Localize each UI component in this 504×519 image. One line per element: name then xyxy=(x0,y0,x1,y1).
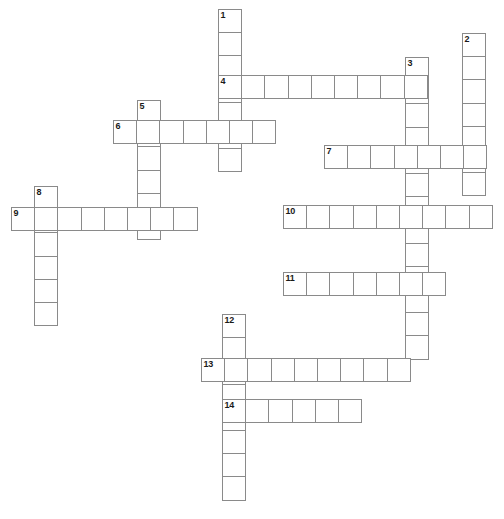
crossword-cell[interactable] xyxy=(469,205,493,229)
crossword-cell[interactable] xyxy=(150,207,174,231)
crossword-cell[interactable] xyxy=(222,430,246,454)
crossword-cell[interactable] xyxy=(399,205,423,229)
crossword-cell[interactable] xyxy=(34,302,58,326)
crossword-cell[interactable] xyxy=(218,32,242,56)
crossword-cell[interactable] xyxy=(245,399,269,423)
crossword-cell[interactable] xyxy=(353,205,377,229)
crossword-cell[interactable] xyxy=(292,399,316,423)
crossword-cell[interactable] xyxy=(311,75,335,99)
crossword-cell[interactable] xyxy=(294,358,318,382)
crossword-cell[interactable] xyxy=(376,205,400,229)
cell-number-7: 7 xyxy=(327,146,332,157)
crossword-cell[interactable] xyxy=(241,75,265,99)
crossword-cell[interactable] xyxy=(357,75,381,99)
cell-number-2: 2 xyxy=(465,34,470,45)
crossword-cell[interactable] xyxy=(218,148,242,172)
crossword-cell[interactable] xyxy=(376,272,400,296)
crossword-cell[interactable]: 10 xyxy=(283,205,307,229)
crossword-cell[interactable] xyxy=(329,272,353,296)
crossword-cell[interactable] xyxy=(462,79,486,103)
crossword-cell[interactable] xyxy=(264,75,288,99)
crossword-cell[interactable] xyxy=(137,170,161,194)
crossword-cell[interactable] xyxy=(462,172,486,196)
crossword-cell[interactable] xyxy=(81,207,105,231)
cell-number-12: 12 xyxy=(225,315,235,326)
cell-number-14: 14 xyxy=(225,400,235,411)
crossword-cell[interactable] xyxy=(462,56,486,80)
crossword-cell[interactable]: 1 xyxy=(218,9,242,33)
crossword-cell[interactable] xyxy=(315,399,339,423)
crossword-cell[interactable] xyxy=(34,232,58,256)
cell-number-3: 3 xyxy=(408,58,413,69)
crossword-cell[interactable] xyxy=(399,272,423,296)
crossword-cell[interactable] xyxy=(206,120,230,144)
cell-number-13: 13 xyxy=(204,359,214,370)
crossword-cell[interactable] xyxy=(404,75,428,99)
crossword-cell[interactable] xyxy=(34,279,58,303)
crossword-cell[interactable] xyxy=(405,173,429,197)
crossword-cell[interactable] xyxy=(137,146,161,170)
cell-number-6: 6 xyxy=(116,121,121,132)
crossword-cell[interactable] xyxy=(173,207,197,231)
crossword-cell[interactable] xyxy=(288,75,312,99)
crossword-cell[interactable] xyxy=(268,399,292,423)
crossword-cell[interactable] xyxy=(417,145,441,169)
crossword-cell[interactable] xyxy=(462,103,486,127)
crossword-cell[interactable] xyxy=(229,120,253,144)
crossword-cell[interactable]: 11 xyxy=(283,272,307,296)
cell-number-11: 11 xyxy=(286,273,295,284)
crossword-cell[interactable] xyxy=(271,358,295,382)
crossword-cell[interactable] xyxy=(370,145,394,169)
crossword-cell[interactable] xyxy=(136,120,160,144)
crossword-cell[interactable] xyxy=(222,476,246,500)
crossword-cell[interactable] xyxy=(380,75,404,99)
crossword-cell[interactable] xyxy=(445,205,469,229)
cell-number-9: 9 xyxy=(14,208,19,219)
cell-number-8: 8 xyxy=(37,187,42,198)
crossword-cell[interactable] xyxy=(57,207,81,231)
crossword-cell[interactable] xyxy=(127,207,151,231)
crossword-cell[interactable]: 4 xyxy=(218,75,242,99)
crossword-cell[interactable] xyxy=(387,358,411,382)
crossword-cell[interactable] xyxy=(405,243,429,267)
crossword-cell[interactable] xyxy=(306,272,330,296)
crossword-cell[interactable] xyxy=(405,312,429,336)
cell-number-5: 5 xyxy=(140,101,145,112)
crossword-cell[interactable] xyxy=(363,358,387,382)
crossword-cell[interactable] xyxy=(422,205,446,229)
crossword-cell[interactable] xyxy=(405,335,429,359)
cell-number-1: 1 xyxy=(221,10,226,21)
crossword-cell[interactable] xyxy=(306,205,330,229)
crossword-cell[interactable] xyxy=(104,207,128,231)
crossword-cell[interactable] xyxy=(34,256,58,280)
crossword-cell[interactable] xyxy=(222,453,246,477)
crossword-cell[interactable] xyxy=(347,145,371,169)
crossword-cell[interactable]: 12 xyxy=(222,314,246,338)
crossword-cell[interactable] xyxy=(159,120,183,144)
crossword-cell[interactable] xyxy=(247,358,271,382)
crossword-cell[interactable]: 9 xyxy=(11,207,35,231)
crossword-cell[interactable] xyxy=(340,358,364,382)
crossword-cell[interactable] xyxy=(317,358,341,382)
crossword-cell[interactable]: 13 xyxy=(201,358,225,382)
crossword-cell[interactable] xyxy=(394,145,418,169)
cell-number-10: 10 xyxy=(286,206,296,217)
crossword-cell[interactable] xyxy=(224,358,248,382)
crossword-cell[interactable] xyxy=(338,399,362,423)
crossword-cell[interactable]: 2 xyxy=(462,33,486,57)
crossword-cell[interactable] xyxy=(252,120,276,144)
crossword-cell[interactable]: 6 xyxy=(113,120,137,144)
crossword-cell[interactable] xyxy=(405,103,429,127)
crossword-cell[interactable]: 7 xyxy=(324,145,348,169)
crossword-grid[interactable]: 1234567891011121314 xyxy=(0,0,504,519)
crossword-cell[interactable]: 14 xyxy=(222,399,246,423)
crossword-cell[interactable] xyxy=(422,272,446,296)
crossword-cell[interactable] xyxy=(440,145,464,169)
crossword-cell[interactable] xyxy=(334,75,358,99)
crossword-cell[interactable] xyxy=(329,205,353,229)
crossword-cell[interactable] xyxy=(34,207,58,231)
crossword-cell[interactable] xyxy=(463,145,487,169)
crossword-cell[interactable] xyxy=(353,272,377,296)
cell-number-4: 4 xyxy=(221,76,226,87)
crossword-cell[interactable] xyxy=(183,120,207,144)
